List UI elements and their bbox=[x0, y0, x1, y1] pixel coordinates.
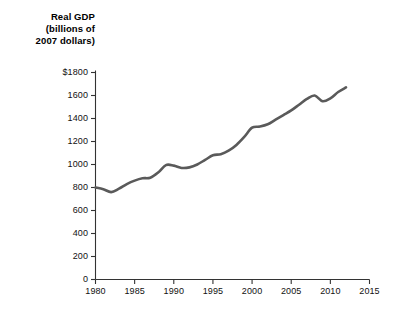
y-tick-label: 1400 bbox=[34, 113, 88, 123]
y-tick-label: 800 bbox=[34, 182, 88, 192]
y-tick-label: 600 bbox=[34, 205, 88, 215]
y-tick-label: $1800 bbox=[34, 67, 88, 77]
x-tick-label: 2015 bbox=[350, 286, 390, 296]
y-tick-label: 400 bbox=[34, 228, 88, 238]
x-tick-label: 2000 bbox=[232, 286, 272, 296]
x-tick-label: 1990 bbox=[154, 286, 194, 296]
y-tick-label: 200 bbox=[34, 251, 88, 261]
x-tick-label: 2010 bbox=[310, 286, 350, 296]
chart-plot-area bbox=[0, 0, 410, 315]
x-tick-label: 1980 bbox=[76, 286, 116, 296]
y-tick-label: 0 bbox=[34, 274, 88, 284]
y-tick-label: 1200 bbox=[34, 136, 88, 146]
y-tick-label: 1000 bbox=[34, 159, 88, 169]
chart-tick-marks bbox=[91, 73, 370, 285]
x-tick-label: 1985 bbox=[115, 286, 155, 296]
x-tick-label: 2005 bbox=[271, 286, 311, 296]
gdp-line-series bbox=[96, 87, 347, 192]
chart-axes bbox=[96, 71, 370, 280]
y-tick-label: 1600 bbox=[34, 90, 88, 100]
x-tick-label: 1995 bbox=[193, 286, 233, 296]
chart-screenshot: Real GDP (billions of 2007 dollars) 0200… bbox=[0, 0, 410, 315]
